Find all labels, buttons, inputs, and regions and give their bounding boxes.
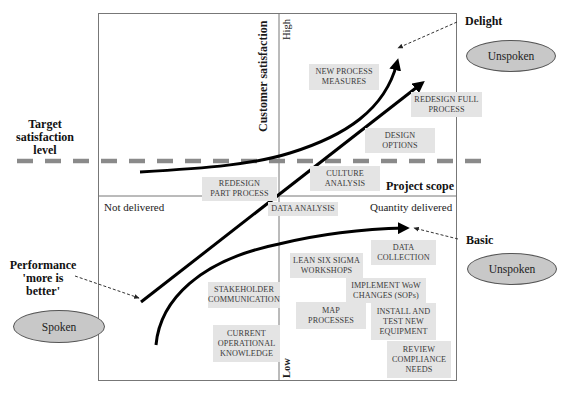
y-high-label: High	[281, 19, 292, 40]
box-data-collection: DATA COLLECTION	[371, 240, 436, 265]
unspoken-ellipse-bottom: Unspoken	[467, 253, 557, 285]
delight-pointer	[398, 22, 457, 48]
box-design-options: DESIGN OPTIONS	[365, 128, 435, 153]
box-review-compliance-needs: REVIEW COMPLIANCE NEEDS	[387, 341, 451, 378]
box-culture-analysis: CULTURE ANALYSIS	[310, 166, 380, 191]
basic-label: Basic	[466, 234, 493, 247]
box-map-processes: MAP PROCESSES	[296, 302, 366, 329]
target-satisfaction-label: Target satisfaction level	[10, 118, 80, 157]
x-left-label: Not delivered	[104, 201, 164, 213]
box-data-analysis: DATA ANALYSIS	[268, 202, 338, 216]
box-current-operational-knowledge: CURRENT OPERATIONAL KNOWLEDGE	[213, 325, 280, 362]
x-axis-label: Project scope	[386, 180, 454, 193]
box-stakeholder-communication: STAKEHOLDER COMMUNICATION	[208, 282, 280, 308]
box-redesign-full-process: REDESIGN FULL PROCESS	[411, 92, 482, 117]
basic-pointer	[414, 228, 458, 239]
performance-line	[141, 84, 421, 302]
unspoken-ellipse-top: Unspoken	[466, 40, 556, 72]
performance-label: Performance 'more is better'	[8, 259, 78, 298]
box-lean-six-sigma-workshops: LEAN SIX SIGMA WORKSHOPS	[290, 253, 363, 278]
y-axis-label: Customer satisfaction	[256, 21, 271, 132]
performance-pointer	[75, 276, 139, 298]
x-right-label: Quantity delivered	[370, 201, 452, 213]
box-redesign-part-process: REDESIGN PART PROCESS	[202, 177, 277, 201]
y-low-label: Low	[281, 358, 292, 378]
box-new-process-measures: NEW PROCESS MEASURES	[309, 64, 379, 90]
delight-label: Delight	[465, 15, 502, 28]
box-install-test-equipment: INSTALL AND TEST NEW EQUIPMENT	[371, 303, 436, 340]
box-implement-wow-changes: IMPLEMENT WoW CHANGES (SOPs)	[346, 278, 426, 303]
spoken-ellipse: Spoken	[13, 310, 105, 343]
